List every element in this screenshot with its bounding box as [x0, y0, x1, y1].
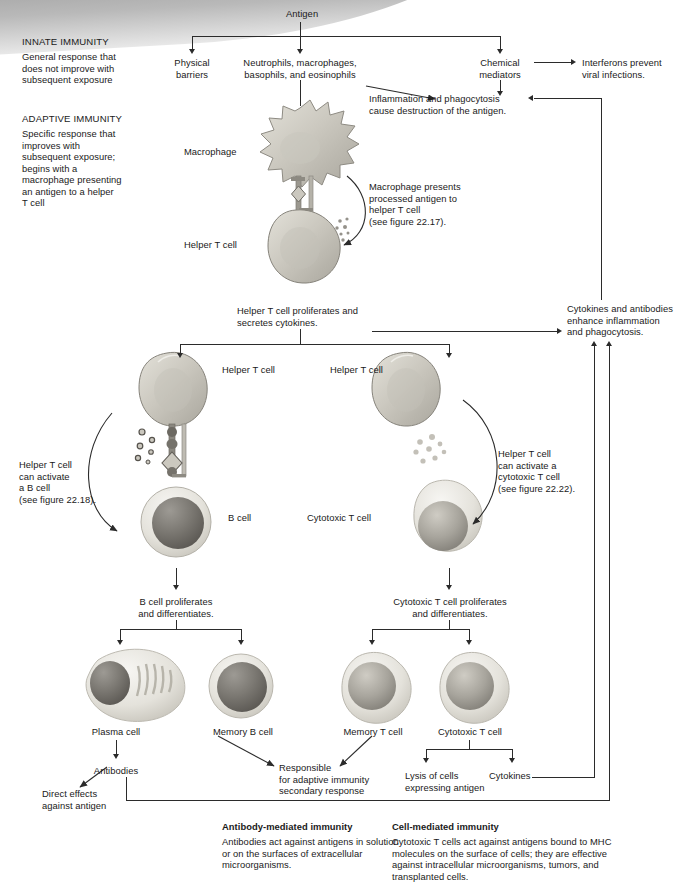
memory-b-to-responsible-arrow	[218, 736, 274, 766]
plasma-to-antibodies-line	[116, 740, 117, 755]
ctl-effect-bus	[426, 749, 513, 750]
ctl-split-right-arrowhead	[466, 640, 472, 645]
memory-t-to-responsible-arrow	[340, 736, 372, 766]
responsible-line-3: secondary response	[279, 785, 364, 797]
cytotoxic-t-cell-icon	[414, 480, 482, 551]
helper-t-cell-right-label: Helper T cell	[330, 364, 383, 376]
activate-ctl-line-2: can activate a	[498, 460, 557, 472]
antibodies-return-arrowhead	[606, 341, 612, 346]
activate-b-cell-line-2: can activate	[19, 471, 70, 483]
macrophage-cell-icon	[260, 100, 359, 187]
activate-cytotoxic-t-curve-arrow	[463, 400, 497, 524]
adaptive-immunity-line-4: begins with a	[22, 163, 77, 175]
antibodies-label: Antibodies	[76, 765, 156, 777]
top-branch-bus	[192, 36, 501, 37]
cell-mediated-line-2: molecules on the surface of cells; they …	[392, 848, 607, 860]
branch-phagocyte-arrowhead	[297, 49, 303, 54]
cell-mediated-line-1: Cytotoxic T cells act against antigens b…	[392, 836, 612, 848]
interferons-line-2: viral infections.	[582, 69, 645, 81]
immunity-overview-figure: INNATE IMMUNITY General response that do…	[0, 0, 684, 887]
feedback-to-inflammation-line	[534, 98, 602, 99]
antigen-stem-line	[300, 22, 301, 36]
antibody-mediated-line-1: Antibodies act against antigens in solut…	[222, 836, 399, 848]
inflammation-line-2: cause destruction of the antigen.	[369, 105, 506, 117]
chemical-mediators-line-1: Chemical	[471, 57, 529, 69]
branch-physical-arrowhead	[189, 49, 195, 54]
activate-ctl-line-3: cytotoxic T cell	[498, 471, 560, 483]
cytokine-dots-icon	[335, 217, 349, 241]
branch-phagocyte-line	[300, 36, 301, 50]
chemical-to-interferons-line	[534, 62, 572, 63]
ctl-split-bus	[372, 629, 470, 630]
responsible-line-1: Responsible	[279, 762, 331, 774]
interferons-line-1: Interferons prevent	[582, 57, 662, 69]
phagocytes-line-1: Neutrophils, macrophages,	[220, 57, 380, 69]
cytokines-antibodies-line-1: Cytokines and antibodies	[567, 303, 673, 315]
b-cell-label: B cell	[228, 512, 251, 524]
macrophage-presents-line-4: (see figure 22.17).	[369, 216, 446, 228]
memory-b-cell-icon	[209, 654, 273, 718]
responsible-line-2: for adaptive immunity	[279, 774, 369, 786]
adaptive-immunity-line-5: macrophage presenting	[22, 174, 122, 186]
chemical-to-interferons-arrowhead	[571, 59, 576, 65]
helper-t-cell-icon	[268, 210, 340, 283]
cytotoxic-t-cell-bottom-label: Cytotoxic T cell	[418, 726, 522, 738]
helper-proliferates-line-1: Helper T cell proliferates and	[237, 305, 358, 317]
helper-split-left-arrowhead	[177, 353, 183, 358]
cell-mediated-line-3: against intracellular microorganisms, tu…	[392, 859, 599, 871]
antibody-mediated-line-3: microorganisms.	[222, 859, 292, 871]
macrophage-label: Macrophage	[184, 146, 237, 158]
ctl-split-stem	[449, 620, 450, 629]
memory-b-cell-label: Memory B cell	[197, 726, 289, 738]
adaptive-immunity-line-3: subsequent exposure;	[22, 151, 115, 163]
ctl-to-cytokines-arrowhead	[509, 758, 515, 763]
innate-immunity-line-2: does not improve with	[22, 63, 114, 75]
macrophage-presents-line-1: Macrophage presents	[369, 181, 461, 193]
cell-mediated-line-4: transplanted cells.	[392, 871, 469, 883]
proliferates-to-cytokines-line	[372, 331, 558, 332]
b-cell-proliferate-line	[176, 568, 177, 586]
memory-t-cell-icon	[342, 652, 411, 723]
cytokines-label: Cytokines	[489, 770, 531, 782]
inflammation-line-1: Inflammation and phagocytosis	[369, 93, 500, 105]
ctl-proliferate-arrowhead	[446, 585, 452, 590]
branch-physical-line	[192, 36, 193, 50]
activate-b-cell-line-1: Helper T cell	[19, 459, 72, 471]
physical-barriers-line-1: Physical	[163, 57, 221, 69]
b-split-stem	[176, 620, 177, 629]
lysis-line-1: Lysis of cells	[405, 770, 459, 782]
cytotoxic-t-cell-bottom-icon	[440, 652, 509, 723]
ctl-proliferates-line-1: Cytotoxic T cell proliferates	[376, 596, 524, 608]
phagocyte-to-macrophage-line	[300, 80, 301, 106]
plasma-cell-label: Plasma cell	[76, 726, 156, 738]
branch-chemical-line	[500, 36, 501, 50]
b-proliferates-line-1: B cell proliferates	[116, 596, 236, 608]
ctl-proliferates-line-2: and differentiates.	[376, 608, 524, 620]
activate-ctl-line-1: Helper T cell	[498, 448, 551, 460]
cell-mediated-heading: Cell-mediated immunity	[392, 821, 499, 833]
adaptive-immunity-line-6: an antigen to a helper	[22, 186, 114, 198]
cytokines-return-bus	[532, 777, 595, 778]
activate-b-cell-line-3: a B cell	[19, 482, 50, 494]
innate-immunity-heading: INNATE IMMUNITY	[22, 36, 109, 48]
b-proliferates-line-2: and differentiates.	[116, 608, 236, 620]
direct-effects-line-2: against antigen	[42, 800, 106, 812]
ctl-to-lysis-arrowhead	[423, 758, 429, 763]
antibodies-return-riser	[609, 346, 610, 801]
b-split-right-arrowhead	[238, 640, 244, 645]
plasma-cell-icon	[86, 649, 185, 721]
mhc-receptor-complex-icon	[291, 176, 313, 216]
feedback-riser-line	[601, 98, 602, 300]
ctl-proliferate-line	[449, 568, 450, 586]
helper-split-right-arrowhead	[446, 353, 452, 358]
proliferates-stem-line	[300, 329, 301, 344]
feedback-to-inflammation-arrowhead	[528, 95, 533, 101]
b-cell-icon	[141, 487, 211, 557]
mhc-receptor-complex-left-icon	[162, 424, 186, 477]
helper-t-cell-left-icon	[139, 352, 207, 426]
helper-t-cell-left-label: Helper T cell	[222, 364, 275, 376]
antibodies-return-stem	[126, 777, 127, 801]
adaptive-immunity-line-7: T cell	[22, 197, 45, 209]
macrophage-presents-curve-arrow	[344, 176, 365, 245]
innate-immunity-line-3: subsequent exposure	[22, 74, 113, 86]
